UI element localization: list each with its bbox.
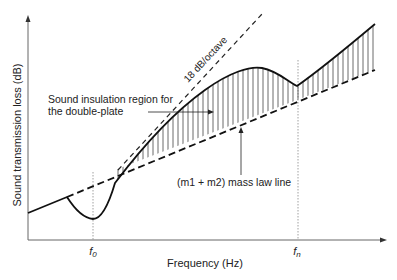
insulation-region-hatch [118, 0, 373, 240]
x-axis-label: Frequency (Hz) [167, 257, 243, 269]
x-axis-arrow-icon [380, 238, 387, 243]
transmission-loss-diagram: Sound transmission loss (dB) Frequency (… [0, 0, 397, 280]
y-axis-label: Sound transmission loss (dB) [11, 63, 23, 206]
mass-law-pointer [239, 127, 244, 175]
transmission-loss-curve [28, 24, 375, 219]
slope-label: 18 dB/octave [181, 34, 229, 85]
y-axis-arrow-icon [26, 15, 31, 22]
tick-f0: f0 [89, 245, 97, 259]
region-label-line2: the double-plate [48, 105, 123, 117]
region-label-line1: Sound insulation region for [48, 93, 173, 105]
tick-fn: fn [293, 245, 301, 259]
mass-law-label: (m1 + m2) mass law line [177, 176, 291, 188]
